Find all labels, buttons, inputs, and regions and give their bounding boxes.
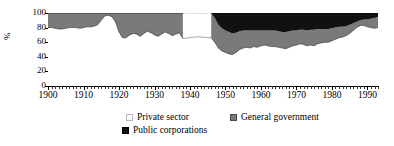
y-tick-label-60: 60 [22, 37, 46, 46]
x-minor-tick-1989 [364, 86, 365, 89]
x-minor-tick-1926 [140, 86, 141, 89]
x-minor-tick-1957 [250, 86, 251, 89]
x-minor-tick-1962 [268, 86, 269, 89]
x-minor-tick-1956 [247, 86, 248, 89]
x-minor-tick-1963 [272, 86, 273, 89]
x-minor-tick-1982 [339, 86, 340, 89]
y-axis-tick-labels: 100806040200 [18, 0, 46, 100]
x-minor-tick-1905 [66, 86, 67, 89]
x-minor-tick-1954 [240, 86, 241, 89]
x-minor-tick-1948 [218, 86, 219, 89]
x-minor-tick-1942 [197, 86, 198, 89]
x-minor-tick-1981 [335, 86, 336, 89]
x-minor-tick-1927 [144, 86, 145, 89]
x-minor-tick-1964 [275, 86, 276, 89]
chart-figure: % 100806040200 1900191019201930194019501… [0, 0, 394, 146]
x-minor-tick-1958 [254, 86, 255, 89]
legend-label-public-corporations: Public corporations [133, 124, 207, 136]
legend-item-public-corporations[interactable]: Public corporations [122, 124, 207, 136]
y-tick-label-80: 80 [22, 23, 46, 32]
x-minor-tick-1947 [215, 86, 216, 89]
gap-connector-private [183, 37, 211, 39]
x-minor-tick-1935 [172, 86, 173, 89]
x-tick-label-1970: 1970 [287, 90, 306, 101]
x-minor-tick-1907 [73, 86, 74, 89]
x-minor-tick-1959 [257, 86, 258, 89]
x-minor-tick-1928 [147, 86, 148, 89]
x-minor-tick-1984 [346, 86, 347, 89]
x-minor-tick-1919 [115, 86, 116, 89]
x-minor-tick-1977 [321, 86, 322, 89]
x-minor-tick-1933 [165, 86, 166, 89]
y-tick-label-20: 20 [22, 66, 46, 75]
x-tick-label-1910: 1910 [74, 90, 93, 101]
x-minor-tick-1983 [343, 86, 344, 89]
x-minor-tick-1918 [112, 86, 113, 89]
x-tick-label-1920: 1920 [110, 90, 129, 101]
legend-item-general-government[interactable]: General government [230, 111, 319, 123]
x-minor-tick-1915 [101, 86, 102, 89]
legend-label-general-government: General government [241, 111, 319, 123]
x-minor-tick-1906 [69, 86, 70, 89]
x-minor-tick-1944 [204, 86, 205, 89]
x-minor-tick-1912 [91, 86, 92, 89]
x-minor-tick-1949 [222, 86, 223, 89]
x-minor-tick-1911 [87, 86, 88, 89]
chart-legend: Private sector General government Public… [126, 111, 376, 137]
x-minor-tick-1946 [211, 86, 212, 89]
x-tick-label-1900: 1900 [39, 90, 58, 101]
x-minor-tick-1961 [265, 86, 266, 89]
y-axis-title: % [2, 33, 12, 41]
x-tick-label-1980: 1980 [322, 90, 341, 101]
x-minor-tick-1952 [233, 86, 234, 89]
x-minor-tick-1972 [304, 86, 305, 89]
x-minor-tick-1992 [375, 86, 376, 89]
x-minor-tick-1902 [55, 86, 56, 89]
x-minor-tick-1975 [314, 86, 315, 89]
x-minor-tick-1991 [371, 86, 372, 89]
legend-label-private-sector: Private sector [137, 111, 189, 123]
x-minor-tick-1969 [293, 86, 294, 89]
x-minor-tick-1923 [130, 86, 131, 89]
x-minor-tick-1938 [183, 86, 184, 89]
x-minor-tick-1945 [208, 86, 209, 89]
x-minor-tick-1921 [123, 86, 124, 89]
x-minor-tick-1937 [179, 86, 180, 89]
x-minor-tick-1903 [59, 86, 60, 89]
x-minor-tick-1943 [201, 86, 202, 89]
x-minor-tick-1936 [176, 86, 177, 89]
x-minor-tick-1951 [229, 86, 230, 89]
x-minor-tick-1925 [137, 86, 138, 89]
x-minor-tick-1953 [236, 86, 237, 89]
x-minor-tick-1976 [318, 86, 319, 89]
legend-item-private-sector[interactable]: Private sector [126, 111, 189, 123]
x-minor-tick-1955 [243, 86, 244, 89]
x-minor-tick-1931 [158, 86, 159, 89]
legend-swatch-private-sector-icon [126, 114, 133, 121]
x-minor-tick-1924 [133, 86, 134, 89]
x-minor-tick-1967 [286, 86, 287, 89]
y-tick-label-100: 100 [22, 8, 46, 17]
y-tick-label-0: 0 [22, 81, 46, 90]
x-minor-tick-1922 [126, 86, 127, 89]
x-minor-tick-1917 [108, 86, 109, 89]
x-minor-tick-1932 [162, 86, 163, 89]
x-minor-tick-1971 [300, 86, 301, 89]
x-minor-tick-1973 [307, 86, 308, 89]
x-minor-tick-1979 [328, 86, 329, 89]
x-minor-tick-1929 [151, 86, 152, 89]
x-minor-tick-1987 [357, 86, 358, 89]
x-minor-tick-1934 [169, 86, 170, 89]
x-minor-tick-1904 [62, 86, 63, 89]
x-axis-tick-labels: 1900191019201930194019501960197019801990 [48, 90, 378, 104]
x-minor-tick-1968 [289, 86, 290, 89]
x-minor-tick-1913 [94, 86, 95, 89]
legend-swatch-general-government-icon [230, 114, 237, 121]
x-minor-tick-1988 [360, 86, 361, 89]
x-tick-label-1930: 1930 [145, 90, 164, 101]
x-tick-label-1950: 1950 [216, 90, 235, 101]
plot-area [48, 13, 378, 86]
x-minor-tick-1909 [80, 86, 81, 89]
x-tick-label-1990: 1990 [358, 90, 377, 101]
x-minor-tick-1993 [378, 86, 379, 89]
